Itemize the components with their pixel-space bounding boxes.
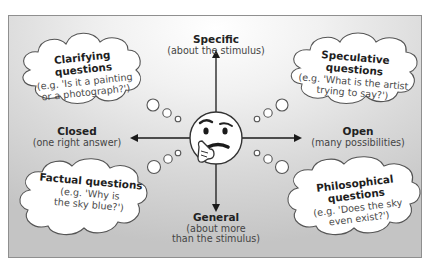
label-specific-subtitle: (about the stimulus) <box>160 46 272 57</box>
label-general-subtitle-line2: than the stimulus) <box>160 234 272 245</box>
label-general-title: General <box>160 212 272 224</box>
label-specific-title: Specific <box>160 34 272 46</box>
label-closed-subtitle: (one right answer) <box>22 138 132 149</box>
label-closed-title: Closed <box>22 126 132 138</box>
label-closed: Closed (one right answer) <box>22 126 132 148</box>
label-open-subtitle: (many possibilities) <box>300 138 416 149</box>
label-open: Open (many possibilities) <box>300 126 416 148</box>
thinking-face-icon <box>190 112 242 164</box>
label-general: General (about more than the stimulus) <box>160 212 272 245</box>
label-open-title: Open <box>300 126 416 138</box>
label-specific: Specific (about the stimulus) <box>160 34 272 56</box>
